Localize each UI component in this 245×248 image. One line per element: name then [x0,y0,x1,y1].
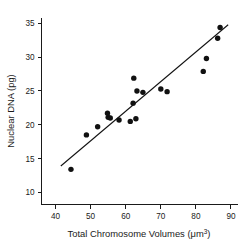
x-tick-label: 40 [51,212,61,221]
x-axis-title: Total Chromosome Volumes (μm3) [68,228,211,239]
data-point [108,115,113,120]
data-point [134,88,139,93]
data-point [131,75,136,80]
y-tick-label: 15 [25,155,35,164]
y-tick-label: 10 [25,188,35,197]
axes [42,18,239,205]
chart-canvas: 405060708090 101520253035 Total Chromoso… [0,0,245,248]
data-point [84,132,89,137]
y-axis-title: Nuclear DNA (pg) [5,74,16,147]
data-point [215,36,220,41]
data-series [68,25,223,172]
x-tick-label: 60 [121,212,131,221]
y-tick-label: 30 [25,53,35,62]
data-point [201,69,206,74]
data-point [95,124,100,129]
x-tick-label: 80 [191,212,201,221]
scatter-plot-figure: 405060708090 101520253035 Total Chromoso… [0,0,245,248]
data-point [68,167,73,172]
data-point [128,119,133,124]
x-tick-label: 70 [156,212,166,221]
y-axis-ticks: 101520253035 [25,19,41,197]
data-point [140,90,145,95]
data-point [204,56,209,61]
y-tick-label: 25 [25,87,35,96]
x-axis-ticks: 405060708090 [51,205,236,221]
regression-line [61,25,228,166]
data-point [133,116,138,121]
data-point [158,86,163,91]
x-tick-label: 90 [226,212,236,221]
x-tick-label: 50 [86,212,96,221]
y-tick-label: 35 [25,19,35,28]
data-point [164,89,169,94]
y-tick-label: 20 [25,121,35,130]
